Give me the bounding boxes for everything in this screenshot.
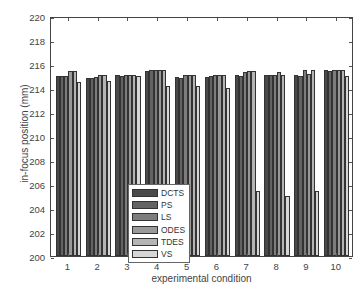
legend-swatch-icon (132, 189, 158, 197)
y-tick-mark (51, 90, 54, 91)
x-tick-label: 7 (244, 261, 249, 272)
y-tick-label: 214 (0, 84, 45, 95)
y-tick-label: 200 (0, 252, 45, 263)
y-tick-mark (51, 18, 54, 19)
x-tick-mark (217, 18, 218, 21)
x-tick-mark (98, 253, 99, 256)
x-tick-mark (157, 18, 158, 21)
legend-label: DCTS (161, 188, 184, 198)
x-tick-label: 2 (94, 261, 99, 272)
y-tick-mark (51, 138, 54, 139)
bar-vs (77, 82, 81, 256)
y-tick-mark (349, 162, 352, 163)
x-tick-mark (336, 253, 337, 256)
bar-vs (196, 86, 200, 256)
x-tick-label: 6 (214, 261, 219, 272)
x-tick-mark (306, 253, 307, 256)
x-tick-mark (68, 18, 69, 21)
y-tick-label: 204 (0, 204, 45, 215)
y-tick-mark (51, 258, 54, 259)
legend-label: LS (161, 212, 171, 222)
legend-item: TDES (132, 236, 186, 248)
legend-item: ODES (132, 224, 186, 236)
x-tick-label: 8 (273, 261, 278, 272)
x-tick-mark (306, 18, 307, 21)
plot-area (50, 17, 353, 257)
x-tick-mark (277, 18, 278, 21)
y-tick-mark (349, 66, 352, 67)
x-tick-mark (247, 18, 248, 21)
x-tick-mark (217, 253, 218, 256)
legend-item: LS (132, 211, 186, 223)
legend-swatch-icon (132, 226, 158, 234)
y-tick-label: 212 (0, 108, 45, 119)
legend-label: ODES (161, 225, 185, 235)
y-tick-label: 206 (0, 180, 45, 191)
bar-vs (256, 191, 260, 256)
bar-vs (285, 196, 289, 256)
legend-label: TDES (161, 237, 184, 247)
y-tick-label: 208 (0, 156, 45, 167)
y-tick-mark (51, 42, 54, 43)
y-tick-label: 218 (0, 36, 45, 47)
y-tick-mark (349, 234, 352, 235)
bar-vs (226, 88, 230, 256)
y-tick-mark (349, 90, 352, 91)
y-tick-mark (349, 42, 352, 43)
bar-vs (107, 81, 111, 256)
x-tick-label: 9 (303, 261, 308, 272)
y-tick-mark (51, 234, 54, 235)
legend-item: PS (132, 199, 186, 211)
legend-item: VS (132, 248, 186, 260)
legend: DCTSPSLSODESTDESVS (128, 184, 190, 263)
legend-label: PS (161, 200, 172, 210)
x-tick-mark (277, 253, 278, 256)
x-tick-mark (98, 18, 99, 21)
y-tick-mark (349, 258, 352, 259)
x-tick-label: 10 (330, 261, 341, 272)
y-tick-label: 202 (0, 228, 45, 239)
legend-swatch-icon (132, 250, 158, 258)
y-tick-mark (51, 162, 54, 163)
y-tick-label: 220 (0, 12, 45, 23)
y-tick-mark (349, 114, 352, 115)
x-tick-mark (68, 253, 69, 256)
bar-vs (315, 191, 319, 256)
legend-swatch-icon (132, 201, 158, 209)
legend-swatch-icon (132, 213, 158, 221)
legend-swatch-icon (132, 238, 158, 246)
x-tick-label: 1 (65, 261, 70, 272)
y-tick-label: 216 (0, 60, 45, 71)
y-tick-mark (51, 114, 54, 115)
y-tick-mark (51, 186, 54, 187)
x-tick-mark (187, 18, 188, 21)
y-tick-mark (51, 210, 54, 211)
y-tick-mark (349, 186, 352, 187)
y-tick-mark (51, 66, 54, 67)
bar-vs (345, 76, 349, 256)
y-tick-label: 210 (0, 132, 45, 143)
legend-label: VS (161, 249, 172, 259)
y-tick-mark (349, 138, 352, 139)
x-tick-mark (247, 253, 248, 256)
x-axis-label: experimental condition (50, 273, 353, 284)
legend-item: DCTS (132, 187, 186, 199)
y-tick-mark (349, 210, 352, 211)
x-tick-mark (127, 18, 128, 21)
y-tick-mark (349, 18, 352, 19)
x-tick-mark (336, 18, 337, 21)
